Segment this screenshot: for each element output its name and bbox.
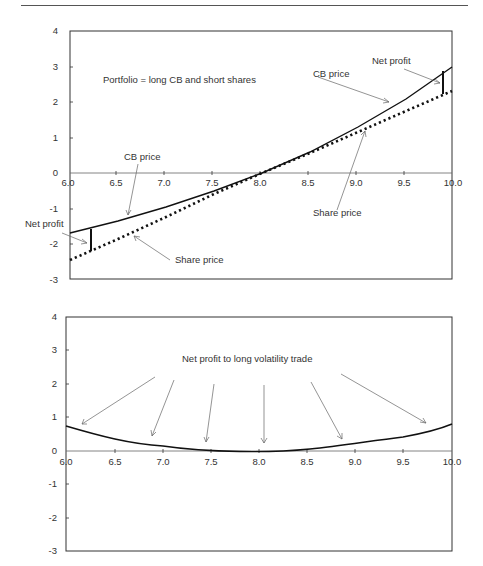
bottom-annotation-arrows xyxy=(82,374,426,443)
y-tick-label: -2 xyxy=(49,512,57,523)
x-tick-label: 6.5 xyxy=(108,456,121,467)
long-volatility-chart: 4 3 2 1 0 -1 -2 -3 6.0 6.5 7.0 7.5 8.0 8… xyxy=(0,0,483,566)
x-tick-label: 7.0 xyxy=(156,456,169,467)
net-profit-curve xyxy=(66,424,452,452)
y-tick-label: 3 xyxy=(52,344,57,355)
x-tick-label: 6.0 xyxy=(59,456,72,467)
x-tick-label: 9.5 xyxy=(396,456,409,467)
y-tick-label: 0 xyxy=(52,445,57,456)
y-tick-label: 4 xyxy=(52,311,57,322)
x-tick-label: 9.0 xyxy=(348,456,361,467)
y-tick-label: -3 xyxy=(49,545,57,556)
x-tick-label: 8.0 xyxy=(252,456,265,467)
y-tick-label: 2 xyxy=(52,378,57,389)
x-tick-label: 10.0 xyxy=(443,456,462,467)
y-tick-label: 1 xyxy=(52,411,57,422)
x-tick-label: 8.5 xyxy=(300,456,313,467)
long-volatility-label: Net profit to long volatility trade xyxy=(182,353,312,364)
y-tick-label: -1 xyxy=(49,478,57,489)
x-tick-label: 7.5 xyxy=(204,456,217,467)
